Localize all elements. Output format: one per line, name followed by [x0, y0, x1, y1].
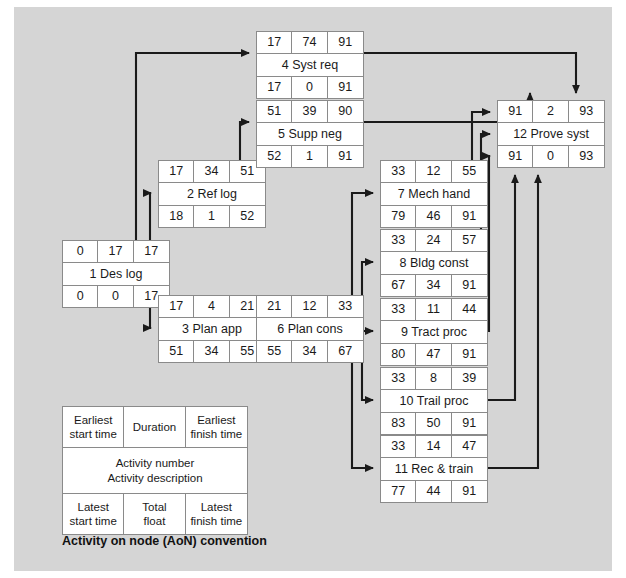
node-middle-row: 12 Prove syst: [498, 123, 604, 146]
total-float-value: 34: [194, 341, 229, 362]
latest-start-value: 0: [63, 286, 98, 307]
aon-diagram-page: 0 17 17 1 Des log 0 0 17 17 34 51 2 Ref …: [0, 0, 626, 578]
latest-start-value: 52: [257, 146, 292, 167]
node-7-mech-hand[interactable]: 33 12 55 7 Mech hand 79 46 91: [380, 160, 488, 228]
node-top-row: 0 17 17: [63, 241, 169, 263]
node-top-row: 33 12 55: [381, 161, 487, 183]
earliest-start-value: 33: [381, 161, 416, 182]
earliest-finish-value: 39: [452, 368, 487, 389]
latest-finish-value: 52: [230, 206, 265, 227]
activity-description: 5 Supp neg: [257, 123, 363, 145]
duration-value: 74: [292, 32, 327, 53]
legend-earliest-start-line2: start time: [70, 427, 117, 441]
node-bottom-row: 52 1 91: [257, 146, 363, 167]
earliest-finish-value: 93: [569, 101, 604, 122]
earliest-start-value: 17: [159, 296, 194, 317]
node-top-row: 51 39 90: [257, 101, 363, 123]
duration-value: 4: [194, 296, 229, 317]
latest-finish-value: 91: [452, 206, 487, 227]
node-3-plan-app[interactable]: 17 4 21 3 Plan app 51 34 55: [158, 295, 266, 363]
legend-total-float-line1: Total: [142, 500, 166, 514]
node-middle-row: 1 Des log: [63, 263, 169, 286]
legend-latest-finish-line2: finish time: [190, 514, 242, 528]
earliest-finish-value: 57: [452, 230, 487, 251]
total-float-value: 1: [292, 146, 327, 167]
node-middle-row: 8 Bldg const: [381, 252, 487, 275]
duration-value: 34: [194, 161, 229, 182]
latest-start-value: 17: [257, 77, 292, 98]
latest-start-value: 83: [381, 413, 416, 434]
node-middle-row: 10 Trail proc: [381, 390, 487, 413]
node-11-rec-train[interactable]: 33 14 47 11 Rec & train 77 44 91: [380, 435, 488, 503]
node-top-row: 17 4 21: [159, 296, 265, 318]
legend-latest-start-line2: start time: [70, 514, 117, 528]
legend-total-float-line2: float: [144, 514, 166, 528]
node-6-plan-cons[interactable]: 21 12 33 6 Plan cons 55 34 67: [256, 295, 364, 363]
node-bottom-row: 91 0 93: [498, 146, 604, 167]
node-middle-row: 3 Plan app: [159, 318, 265, 341]
activity-description: 2 Ref log: [159, 183, 265, 205]
node-top-row: 21 12 33: [257, 296, 363, 318]
earliest-start-value: 0: [63, 241, 98, 262]
earliest-start-value: 21: [257, 296, 292, 317]
earliest-finish-value: 55: [452, 161, 487, 182]
node-5-supp-neg[interactable]: 51 39 90 5 Supp neg 52 1 91: [256, 100, 364, 168]
activity-description: 11 Rec & train: [381, 458, 487, 480]
latest-start-value: 91: [498, 146, 533, 167]
latest-start-value: 51: [159, 341, 194, 362]
activity-description: 12 Prove syst: [498, 123, 604, 145]
activity-description: 4 Syst req: [257, 54, 363, 76]
legend-activity-description: Activity description: [107, 471, 202, 486]
legend-latest-finish: Latest finish time: [186, 494, 247, 534]
legend-duration: Duration: [124, 407, 185, 447]
latest-finish-value: 67: [328, 341, 363, 362]
latest-start-value: 55: [257, 341, 292, 362]
total-float-value: 34: [292, 341, 327, 362]
node-9-tract-proc[interactable]: 33 11 44 9 Tract proc 80 47 91: [380, 298, 488, 366]
node-12-prove-syst[interactable]: 91 2 93 12 Prove syst 91 0 93: [497, 100, 605, 168]
earliest-finish-value: 91: [328, 32, 363, 53]
legend-latest-start-line1: Latest: [78, 500, 109, 514]
total-float-value: 0: [98, 286, 133, 307]
node-top-row: 33 8 39: [381, 368, 487, 390]
earliest-start-value: 33: [381, 436, 416, 457]
total-float-value: 1: [194, 206, 229, 227]
node-bottom-row: 77 44 91: [381, 481, 487, 502]
duration-value: 2: [533, 101, 568, 122]
node-bottom-row: 51 34 55: [159, 341, 265, 362]
duration-value: 39: [292, 101, 327, 122]
total-float-value: 47: [416, 344, 451, 365]
latest-start-value: 77: [381, 481, 416, 502]
node-top-row: 91 2 93: [498, 101, 604, 123]
node-10-trail-proc[interactable]: 33 8 39 10 Trail proc 83 50 91: [380, 367, 488, 435]
node-top-row: 33 14 47: [381, 436, 487, 458]
total-float-value: 0: [292, 77, 327, 98]
legend-latest-start: Latest start time: [63, 494, 124, 534]
node-bottom-row: 0 0 17: [63, 286, 169, 307]
node-4-syst-req[interactable]: 17 74 91 4 Syst req 17 0 91: [256, 31, 364, 99]
latest-finish-value: 91: [328, 146, 363, 167]
earliest-start-value: 51: [257, 101, 292, 122]
node-bottom-row: 17 0 91: [257, 77, 363, 98]
latest-start-value: 80: [381, 344, 416, 365]
node-1-des-log[interactable]: 0 17 17 1 Des log 0 0 17: [62, 240, 170, 308]
activity-description: 6 Plan cons: [257, 318, 363, 340]
latest-start-value: 18: [159, 206, 194, 227]
legend-duration-label: Duration: [133, 420, 176, 434]
legend-total-float: Total float: [124, 494, 185, 534]
activity-description: 8 Bldg const: [381, 252, 487, 274]
earliest-finish-value: 90: [328, 101, 363, 122]
node-2-ref-log[interactable]: 17 34 51 2 Ref log 18 1 52: [158, 160, 266, 228]
total-float-value: 44: [416, 481, 451, 502]
node-top-row: 33 11 44: [381, 299, 487, 321]
legend-top-row: Earliest start time Duration Earliest fi…: [63, 407, 247, 448]
earliest-start-value: 33: [381, 368, 416, 389]
node-bottom-row: 18 1 52: [159, 206, 265, 227]
node-bottom-row: 83 50 91: [381, 413, 487, 434]
node-top-row: 17 74 91: [257, 32, 363, 54]
activity-description: 9 Tract proc: [381, 321, 487, 343]
node-bottom-row: 80 47 91: [381, 344, 487, 365]
node-8-bldg-const[interactable]: 33 24 57 8 Bldg const 67 34 91: [380, 229, 488, 297]
total-float-value: 34: [416, 275, 451, 296]
duration-value: 11: [416, 299, 451, 320]
